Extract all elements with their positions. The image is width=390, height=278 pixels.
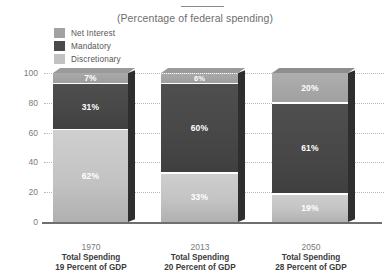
x-axis-baseline	[42, 222, 382, 224]
bar-2050-segment-net-interest: 20%	[272, 73, 348, 103]
bar-2050-side-face	[348, 70, 355, 222]
bar-2050-divider-lower	[272, 193, 348, 195]
bar-2050-divider-upper	[272, 102, 348, 104]
bar-2013-side-face	[238, 70, 245, 222]
bar-2050-segment-mandatory: 61%	[272, 103, 348, 194]
bar-2013-segment-discretionary: 33%	[161, 173, 238, 222]
bar-1970-divider-upper	[53, 83, 128, 85]
bar-2013-label-discretionary: 33%	[191, 192, 209, 202]
ytick-0: 0	[12, 217, 38, 227]
xlabel-2050: 2050 Total Spending 28 Percent of GDP	[236, 242, 386, 273]
bar-1970-label-discretionary: 62%	[82, 171, 100, 181]
ytick-60: 60	[12, 128, 38, 138]
xlabel-2050-sub2: 28 Percent of GDP	[236, 263, 386, 273]
bar-2013-top-face	[161, 68, 245, 73]
bar-1970-label-mandatory: 31%	[82, 102, 100, 112]
bar-1970-side-face	[128, 70, 135, 222]
bar-1970[interactable]: 62% 31% 7%	[53, 73, 128, 222]
bar-2013-label-mandatory: 60%	[191, 123, 209, 133]
ytick-100: 100	[12, 68, 38, 78]
bar-2013-segment-mandatory: 60%	[161, 83, 238, 172]
bar-2050[interactable]: 19% 61% 20%	[272, 73, 348, 222]
xlabel-2050-sub1: Total Spending	[236, 253, 386, 263]
bar-1970-segment-mandatory: 31%	[53, 83, 128, 129]
bar-2050-label-discretionary: 19%	[301, 203, 319, 213]
bar-2013[interactable]: 33% 60% 6%	[161, 73, 238, 222]
bar-2013-divider-upper	[161, 83, 238, 85]
ytick-80: 80	[12, 98, 38, 108]
bar-2050-segment-discretionary: 19%	[272, 194, 348, 222]
ytick-40: 40	[12, 157, 38, 167]
bar-1970-divider-lower	[53, 129, 128, 131]
chart-plot-area: 100 80 60 40 20 0 62% 31% 7% 33% 60%	[0, 0, 390, 278]
bar-2050-label-mandatory: 61%	[301, 143, 319, 153]
bar-2013-divider-lower	[161, 172, 238, 174]
bar-2050-label-net-interest: 20%	[301, 83, 319, 93]
xlabel-2050-year: 2050	[236, 242, 386, 253]
ytick-20: 20	[12, 187, 38, 197]
bar-1970-segment-discretionary: 62%	[53, 130, 128, 222]
